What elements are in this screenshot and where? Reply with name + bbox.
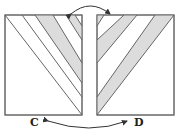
panel-d [97,15,174,115]
bottom-double-arrow [48,121,127,128]
panel-c [5,15,82,115]
label-c: C [30,116,39,129]
label-d: D [134,116,144,129]
top-double-arrow [71,6,110,14]
symmetry-diagram: C D [0,0,180,129]
